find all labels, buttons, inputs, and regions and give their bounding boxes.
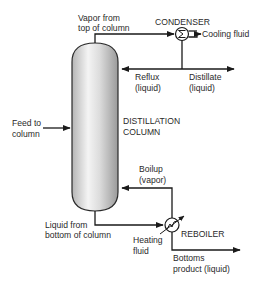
feed-label-1: Feed to (12, 118, 41, 128)
bottoms-label-2: product (liquid) (173, 264, 230, 274)
vapor-top-line (95, 34, 174, 43)
heating-fluid-label-2: fluid (133, 246, 149, 256)
boilup-line (122, 188, 172, 218)
column-label-1: DISTILLATION (123, 116, 180, 126)
bottoms-label-1: Bottoms (173, 253, 205, 263)
condenser (176, 28, 202, 41)
reboiler-label: REBOILER (181, 229, 224, 239)
condenser-icon (176, 28, 189, 41)
vapor-top-label-1: Vapor from (78, 13, 120, 23)
column-label-2: COLUMN (123, 127, 160, 137)
distillate-label-1: Distillate (189, 72, 222, 82)
boilup-label-2: (vapor) (139, 175, 166, 185)
distillation-diagram: Vapor from top of column CONDENSER Cooli… (0, 0, 263, 283)
vapor-top-label-2: top of column (78, 23, 130, 33)
distillate-label-2: (liquid) (189, 83, 215, 93)
reflux-label-1: Reflux (135, 72, 160, 82)
condenser-label: CONDENSER (155, 17, 210, 27)
liquid-bottom-line (95, 211, 163, 225)
feed-label-2: column (12, 129, 40, 139)
liquid-bottom-label-1: Liquid from (45, 220, 88, 230)
cooling-fluid-label: Cooling fluid (202, 29, 250, 39)
liquid-bottom-label-2: bottom of column (45, 230, 111, 240)
boilup-label-1: Boilup (139, 164, 163, 174)
distillation-column (72, 43, 118, 211)
column-vessel-icon (72, 43, 118, 211)
reflux-label-2: (liquid) (135, 83, 161, 93)
heating-fluid-label-1: Heating (133, 235, 163, 245)
